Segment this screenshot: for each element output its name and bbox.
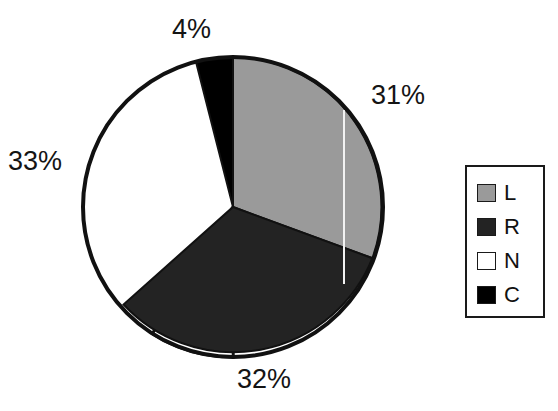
legend-label-c: C	[504, 284, 520, 306]
chart-legend: L R N C	[465, 165, 545, 318]
pie-plot-area	[78, 52, 388, 362]
pie-label-r: 32%	[237, 366, 291, 393]
legend-item-r[interactable]: R	[477, 210, 543, 243]
cropped-title-remnant	[196, 0, 266, 7]
legend-item-l[interactable]: L	[477, 176, 543, 209]
pie-label-c: 4%	[172, 16, 211, 43]
legend-swatch-n-icon	[477, 252, 496, 270]
legend-swatch-c-icon	[477, 286, 496, 304]
pie-chart-figure: 4% 31% 32% 33% L R N C	[0, 0, 558, 411]
pie-label-n: 33%	[8, 148, 62, 175]
legend-swatch-r-icon	[477, 218, 496, 236]
pie-svg	[78, 52, 388, 362]
legend-label-l: L	[504, 182, 516, 204]
legend-label-n: N	[504, 250, 520, 272]
pie-label-l: 31%	[371, 82, 425, 109]
legend-label-r: R	[504, 216, 520, 238]
legend-item-c[interactable]: C	[477, 278, 543, 311]
pie-slice-c[interactable]	[196, 57, 233, 207]
legend-item-n[interactable]: N	[477, 244, 543, 277]
legend-swatch-l-icon	[477, 184, 496, 202]
